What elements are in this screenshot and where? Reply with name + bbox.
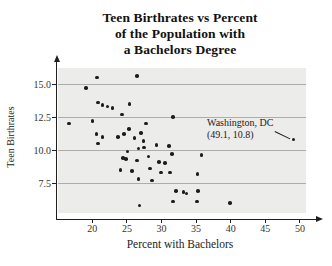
- data-point: [142, 139, 146, 143]
- horizontal-gridline: [58, 150, 306, 151]
- chart-title-line-1: Teen Birthrates vs Percent: [40, 10, 320, 26]
- y-axis-line: [56, 61, 57, 219]
- x-tick-label: 40: [219, 223, 243, 234]
- y-axis-title: Teen Birthrates: [5, 97, 17, 177]
- annotation-washington-dc: Washington, DC (49.1, 10.8): [207, 117, 287, 140]
- data-point: [163, 161, 167, 165]
- scatter-plot-figure: Teen Birthrates vs Percent of the Popula…: [0, 0, 332, 266]
- data-point: [195, 200, 199, 204]
- y-tick-label: 12.5: [21, 112, 51, 123]
- y-axis-tick: [52, 183, 56, 184]
- data-point: [174, 189, 178, 193]
- data-point: [122, 132, 126, 136]
- data-point: [155, 143, 159, 147]
- y-axis-arrowhead-icon: [54, 55, 60, 62]
- x-axis-arrowhead-icon: [316, 216, 323, 222]
- data-point: [135, 74, 139, 78]
- chart-title-line-3: a Bachelors Degree: [40, 42, 320, 58]
- x-axis-title: Percent with Bachelors: [80, 238, 280, 250]
- data-point: [84, 86, 88, 90]
- data-point: [120, 113, 124, 117]
- data-point: [124, 157, 128, 161]
- data-point: [228, 201, 232, 205]
- data-point: [196, 172, 200, 176]
- data-point: [95, 76, 99, 80]
- chart-title: Teen Birthrates vs Percent of the Popula…: [40, 10, 320, 58]
- data-point: [95, 132, 99, 136]
- y-tick-label: 15.0: [21, 79, 51, 90]
- data-point: [127, 127, 131, 131]
- data-point: [148, 167, 152, 171]
- data-point: [96, 101, 100, 105]
- data-point: [139, 131, 143, 135]
- x-tick-label: 45: [253, 223, 277, 234]
- data-point: [159, 171, 163, 175]
- annotation-label: Washington, DC: [207, 117, 287, 129]
- x-tick-label: 25: [115, 223, 139, 234]
- y-axis-tick: [52, 84, 56, 85]
- x-tick-label: 35: [184, 223, 208, 234]
- data-point: [150, 179, 154, 183]
- data-point: [116, 135, 120, 139]
- x-axis-line: [56, 219, 317, 220]
- y-tick-label: 10.0: [21, 145, 51, 156]
- data-point: [167, 144, 171, 148]
- data-point: [196, 189, 200, 193]
- data-point: [171, 115, 175, 119]
- data-point: [170, 152, 174, 156]
- y-tick-label: 7.5: [21, 178, 51, 189]
- data-point: [130, 169, 134, 173]
- horizontal-gridline: [58, 183, 306, 184]
- x-tick-label: 20: [80, 223, 104, 234]
- chart-title-line-2: of the Population with: [40, 26, 320, 42]
- data-point: [142, 146, 146, 150]
- data-point: [67, 122, 71, 126]
- data-point: [168, 171, 172, 175]
- data-point: [157, 160, 161, 164]
- data-point: [96, 142, 100, 146]
- data-point: [91, 119, 95, 123]
- x-tick-label: 30: [150, 223, 174, 234]
- y-axis-tick: [52, 150, 56, 151]
- horizontal-gridline: [58, 84, 306, 85]
- y-axis-tick: [52, 117, 56, 118]
- x-tick-label: 50: [288, 223, 312, 234]
- data-point: [111, 106, 115, 110]
